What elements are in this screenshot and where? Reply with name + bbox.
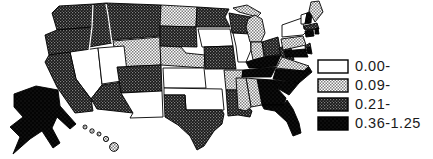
legend-swatch-3 <box>318 117 348 130</box>
state-IA <box>198 29 233 47</box>
state-CT <box>305 30 314 37</box>
state-HI-island <box>110 143 119 152</box>
state-RI <box>315 28 319 34</box>
state-KS <box>163 68 206 88</box>
legend-label-3: 0.36-1.25 <box>355 115 421 131</box>
state-DE <box>307 47 311 53</box>
legend-label-2: 0.21- <box>355 96 391 112</box>
state-OH <box>262 37 281 57</box>
legend-label-0: 0.00- <box>355 58 391 74</box>
map-canvas: 0.00- 0.09- 0.21- 0.36-1.25 <box>0 0 433 159</box>
us-choropleth-figure: 0.00- 0.09- 0.21- 0.36-1.25 <box>0 0 433 159</box>
state-CO <box>117 65 162 93</box>
state-MI <box>246 15 265 42</box>
state-KY <box>246 55 281 68</box>
state-HI-island <box>83 125 87 129</box>
legend-label-1: 0.09- <box>355 77 391 93</box>
legend-swatch-2 <box>318 98 348 111</box>
state-NE <box>160 46 205 68</box>
state-HI-island <box>90 129 94 133</box>
state-MN <box>196 7 230 27</box>
state-HI-island <box>97 132 101 136</box>
state-MO <box>204 46 236 69</box>
state-HI-island <box>103 136 108 141</box>
state-TN <box>242 67 276 77</box>
state-ND <box>160 5 197 27</box>
state-SD <box>160 26 197 47</box>
state-WA <box>52 4 94 30</box>
map-legend: 0.00- 0.09- 0.21- 0.36-1.25 <box>318 58 421 131</box>
legend-swatch-0 <box>318 60 348 73</box>
state-MT <box>106 3 161 40</box>
state-PA <box>281 36 306 50</box>
legend-swatch-1 <box>318 79 348 92</box>
state-FL <box>262 100 301 136</box>
